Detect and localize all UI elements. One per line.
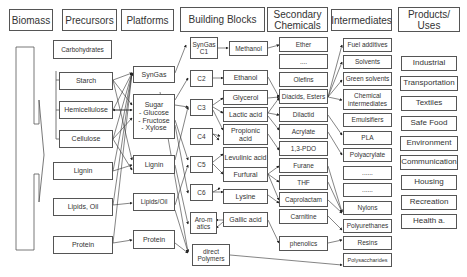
product-environment: Environment (400, 136, 458, 151)
group-c2: C2 (190, 70, 213, 87)
block-gallic-acid: Gallic acid (223, 212, 268, 227)
intermediate-resins: Resins (343, 236, 392, 250)
intermediate-emulsifiers: Emulsifiers (343, 113, 392, 127)
platform-syngas: SynGas (133, 66, 175, 83)
precursor-lipids-oil: Lipids, Oil (53, 198, 113, 216)
product-industrial: Industrial (401, 56, 457, 71)
precursor-protein: Protein (53, 236, 113, 254)
intermediate-chemical-intermediates: Chemical intermediates (343, 89, 392, 110)
intermediate-solvents: Solvents (343, 55, 392, 69)
header-platforms: Platforms (121, 9, 174, 31)
header-building-blocks: Building Blocks (180, 7, 265, 32)
header-intermediates: Intermediates (331, 9, 392, 31)
intermediate-polyurethanes: Polyurethanes (343, 219, 392, 233)
platform-lipids-oil: Lipids/Oil (133, 193, 175, 211)
group-c4: C4 (190, 128, 213, 145)
product-textiles: Textiles (401, 96, 457, 111)
product-health: Health a. (401, 214, 457, 229)
block-furfural: Furfural (223, 167, 268, 182)
header-products-uses: Products/ Uses (398, 7, 460, 32)
group-c3: C3 (190, 99, 213, 116)
sugar-title: Sugar (145, 101, 164, 109)
block-lysine: Lysine (223, 189, 268, 204)
secondary-phenolics: phenolics (279, 236, 328, 251)
secondary-ether: Ether (279, 37, 328, 52)
platform-protein: Protein (133, 230, 175, 249)
intermediate-polysaccharides: Polysaccharides (343, 253, 392, 267)
intermediate-ellipsis-2: ...... (343, 183, 392, 197)
sugar-fructose: - Fructose (138, 117, 170, 125)
group-c6: C6 (190, 184, 213, 201)
block-glycerol: Glycerol (223, 90, 268, 105)
header-secondary-chemicals: Secondary Chemicals (267, 7, 328, 32)
secondary-13-pdo: 1,3-PDO (279, 141, 328, 156)
precursor-starch: Starch (59, 72, 113, 90)
product-safe-food: Safe Food (401, 116, 457, 131)
intermediate-green-solvents: Green solvents (343, 72, 392, 86)
intermediate-fuel-additives: Fuel additives (343, 38, 392, 52)
sugar-xylose: - Xylose (141, 124, 166, 132)
block-ethanol: Ethanol (223, 70, 268, 85)
product-communication: Communication (400, 155, 458, 170)
intermediate-nylons: Nylons (343, 201, 392, 215)
precursor-carbohydrates: Carbohydrates (53, 40, 112, 59)
block-methanol: Methanol (229, 41, 268, 56)
intermediate-pla: PLA (343, 131, 392, 145)
block-lactic-acid: Lactic acid (223, 107, 268, 122)
group-direct-polymers: direct Polymers (192, 244, 230, 266)
header-precursors: Precursors (62, 9, 117, 31)
secondary-ellipsis: .... (279, 54, 328, 69)
group-syngas-c1: SynGas C1 (190, 37, 218, 59)
secondary-dilactid: Dilactid (279, 107, 328, 122)
product-transportation: Transportation (400, 76, 458, 91)
block-propionic-acid: Propionic acid (223, 124, 268, 145)
intermediate-polyacrylate: Polyacrylate (343, 148, 392, 162)
precursor-cellulose: Cellulose (59, 130, 113, 148)
platform-sugar: Sugar - Glucose - Fructose - Xylose (133, 94, 175, 139)
secondary-acrylate: Acrylate (279, 124, 328, 139)
precursor-lignin: Lignin (53, 162, 113, 180)
header-biomass: Biomass (9, 9, 53, 31)
block-levulinic-acid: Levulinic acid (223, 147, 268, 168)
group-c5: C5 (190, 156, 213, 173)
secondary-olefins: Olefins (279, 72, 328, 87)
group-aromatics: Aro-matics (190, 212, 217, 234)
secondary-diacids-esters: Diacids, Esters (279, 89, 328, 104)
product-recreation: Recreation (401, 195, 457, 210)
sugar-glucose: - Glucose (139, 109, 169, 117)
secondary-furane: Furane (279, 158, 328, 173)
secondary-thf: THF (279, 175, 328, 190)
platform-lignin: Lignin (133, 155, 175, 174)
product-housing: Housing (401, 175, 457, 190)
secondary-caprolactam: Caprolactam (279, 192, 328, 207)
intermediate-ellipsis-1: ...... (343, 166, 392, 180)
secondary-carnitine: Carnitine (279, 209, 328, 224)
precursor-hemicellulose: Hemicellulose (59, 101, 113, 119)
